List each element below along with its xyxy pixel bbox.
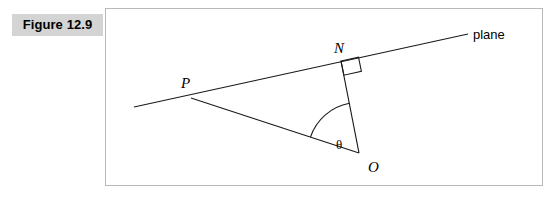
point-label-n: N (333, 40, 345, 56)
figure-container: Figure 12.9 plane P N O θ (0, 0, 555, 199)
segment-p-o (191, 98, 359, 153)
figure-number-label: Figure 12.9 (12, 14, 103, 36)
geometry-diagram-svg: plane P N O θ (106, 9, 544, 187)
diagram-panel: plane P N O θ (105, 8, 543, 186)
point-label-o: O (368, 159, 379, 175)
plane-line (134, 34, 468, 107)
plane-label: plane (473, 27, 505, 42)
point-label-p: P (180, 75, 190, 91)
angle-arc-theta (311, 103, 350, 137)
angle-label-theta: θ (336, 137, 342, 152)
